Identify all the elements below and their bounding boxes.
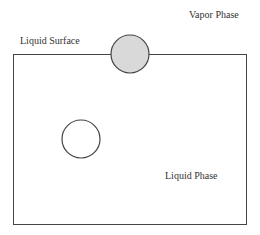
- bulk-particle: [62, 120, 100, 158]
- surface-particle: [111, 35, 149, 73]
- liquid-phase-label: Liquid Phase: [165, 170, 218, 181]
- liquid-surface-label: Liquid Surface: [20, 35, 80, 46]
- vapor-phase-label: Vapor Phase: [189, 9, 239, 20]
- liquid-container: [14, 55, 247, 225]
